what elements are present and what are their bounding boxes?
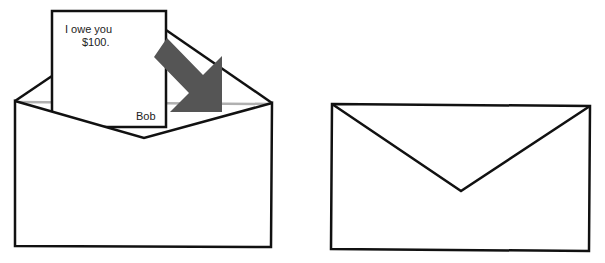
note-line-1: I owe you: [65, 24, 112, 35]
note-line-2: $100.: [82, 37, 110, 48]
open-envelope: [15, 11, 272, 247]
diagram-stage: I owe you $100. Bob: [0, 0, 605, 263]
open-envelope-back-flap: [15, 76, 52, 101]
closed-envelope-body: [331, 104, 590, 251]
note-signature: Bob: [136, 111, 156, 122]
closed-envelope: [331, 104, 590, 251]
